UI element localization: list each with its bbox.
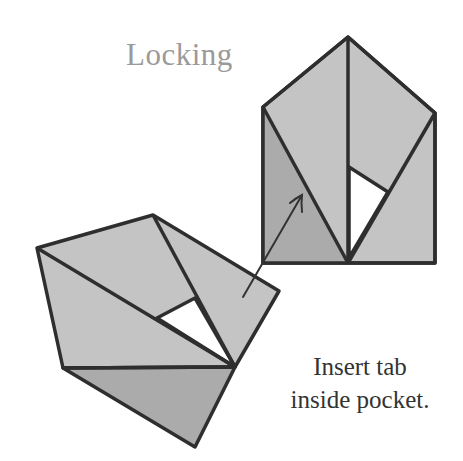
tab-base-fold xyxy=(63,367,235,368)
tab-unit xyxy=(37,215,279,447)
instruction-caption: Insert tab inside pocket. xyxy=(255,350,463,416)
caption-line-1: Insert tab xyxy=(255,350,463,383)
tab-unit-dark-flap xyxy=(63,367,235,447)
caption-line-2: inside pocket. xyxy=(255,383,463,416)
tab-unit-body xyxy=(37,215,279,368)
pocket-unit xyxy=(263,37,435,263)
